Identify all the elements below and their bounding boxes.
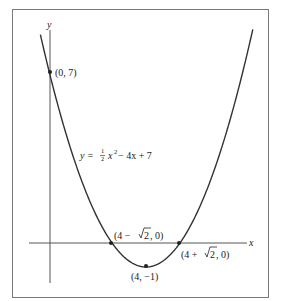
svg-text:, 0): , 0) xyxy=(216,249,229,261)
svg-text:, 0): , 0) xyxy=(150,230,163,242)
point-intercept xyxy=(48,70,52,74)
equation-label: y = 1 2 x 2 − 4x + 7 xyxy=(79,147,152,162)
svg-text:y =: y = xyxy=(79,150,94,161)
parabola-graph: y x (0, 7) y = 1 2 x 2 − 4x + 7 (4 − 2 ,… xyxy=(0,0,282,301)
y-axis-label: y xyxy=(46,19,52,30)
svg-text:(4 +: (4 + xyxy=(181,249,198,261)
eq-lhs: y = xyxy=(79,150,94,161)
point-root-left xyxy=(109,241,113,245)
label-root-left: (4 − 2 , 0) xyxy=(114,228,163,242)
svg-text:2: 2 xyxy=(210,249,215,260)
eq-exp: 2 xyxy=(114,148,117,155)
eq-frac-den: 2 xyxy=(101,155,104,162)
svg-text:2: 2 xyxy=(144,230,149,241)
svg-text:(4 −: (4 − xyxy=(114,230,131,242)
point-vertex xyxy=(144,264,148,268)
eq-x: x xyxy=(107,150,113,161)
x-axis-label: x xyxy=(248,237,254,248)
eq-rhs: − 4x + 7 xyxy=(118,150,152,161)
label-intercept: (0, 7) xyxy=(55,67,77,79)
eq-frac-num: 1 xyxy=(101,147,104,154)
label-root-right: (4 + 2 , 0) xyxy=(181,247,229,261)
label-vertex: (4, −1) xyxy=(131,271,158,283)
point-root-right xyxy=(177,241,181,245)
